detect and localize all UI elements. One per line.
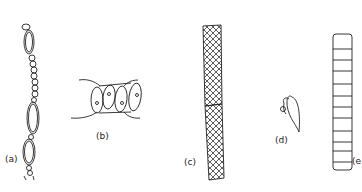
panel-d-label: (d) [275, 135, 288, 145]
panel-c-label: (c) [184, 157, 196, 167]
panel-d-drawing [281, 96, 300, 132]
figure-drawing [0, 0, 362, 192]
panel-a-label: (a) [5, 154, 18, 164]
panel-c-drawing [203, 25, 224, 180]
panel-a-drawing [22, 24, 39, 180]
panel-e-drawing [333, 34, 352, 170]
panel-b-label: (b) [96, 131, 109, 141]
panel-e-label: (e [352, 156, 361, 166]
panel-b-drawing [71, 80, 143, 119]
